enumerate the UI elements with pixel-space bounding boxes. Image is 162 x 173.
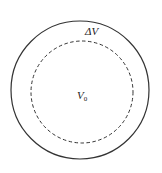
v0-subscript: 0	[84, 95, 88, 103]
diagram-canvas: ΔV V0	[0, 0, 162, 173]
v0-label: V0	[77, 89, 88, 103]
delta-v-label: ΔV	[84, 25, 99, 37]
